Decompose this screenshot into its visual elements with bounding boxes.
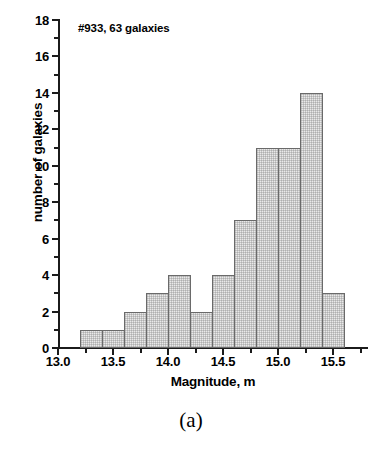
x-tick-label: 13.5 [87,355,139,368]
histogram-bar [190,312,213,348]
histogram-bar [300,93,323,348]
x-tick-label: 15.0 [252,355,304,368]
histogram-figure: 024681012141618 13.013.514.014.515.015.5… [0,0,382,453]
x-tick-minor [305,349,307,353]
y-tick-label: 2 [42,306,49,319]
x-axis-title: Magnitude, m [58,374,368,389]
x-tick-minor [140,349,142,353]
x-tick-label: 13.0 [32,355,84,368]
histogram-bar [124,312,147,348]
x-tick-label: 14.0 [142,355,194,368]
chart-annotation: #933, 63 galaxies [78,22,170,34]
x-tick-label: 15.5 [307,355,359,368]
panel-caption: (a) [0,408,382,433]
x-tick-label: 14.5 [197,355,249,368]
histogram-bar [234,220,257,348]
x-tick-minor [250,349,252,353]
y-axis-title: number of galaxies [30,43,45,283]
x-tick-minor [195,349,197,353]
plot-area [58,20,358,348]
histogram-bar [102,330,125,348]
histogram-bar [146,293,169,348]
histogram-bar [168,275,191,348]
histogram-bar [256,148,279,348]
x-tick-minor [85,349,87,353]
y-tick-label: 18 [35,14,49,27]
histogram-bar [322,293,345,348]
x-tick-minor [360,349,362,353]
histogram-bar [212,275,235,348]
histogram-bar [80,330,103,348]
histogram-bar [278,148,301,348]
